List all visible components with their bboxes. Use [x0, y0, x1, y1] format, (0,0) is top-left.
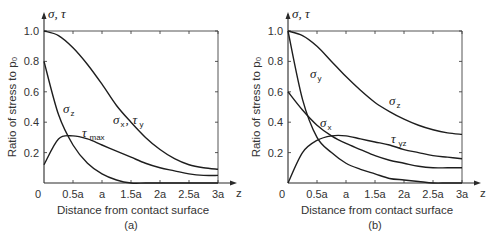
curve-label-subscript: y [318, 74, 322, 83]
x-tick-label: 0 [279, 188, 285, 200]
curve-label-symbol: σ [113, 112, 120, 127]
curve-label-symbol: τ [391, 131, 397, 146]
curve-label-symbol: σ [63, 101, 70, 116]
curve-label-symbol: τ [82, 125, 88, 140]
x-tick-label: 2.5a [178, 188, 200, 200]
y-tick-label: 1.0 [268, 25, 283, 37]
y-tick-label: 0.6 [24, 86, 39, 98]
y-axis-label: Ratio of stress to p₀ [250, 56, 262, 157]
x-tick-label: 3a [212, 188, 225, 200]
x-tick-label: 2a [154, 188, 167, 200]
curve-label-subscript: z [71, 109, 75, 118]
x-tick-label: 2a [398, 188, 411, 200]
y-tick-label: 0.4 [268, 116, 283, 128]
y-tick-label: 0.8 [24, 55, 39, 67]
y-axis-symbol: σ, τ [292, 6, 311, 21]
curve-label: τmax [82, 125, 105, 142]
panel-caption: (b) [368, 219, 381, 231]
chart-panel-a: 00.5aa1.5a2a2.5a3az0.20.40.60.81.0σ, τRa… [6, 6, 242, 231]
x-tick-label: 1.5a [120, 188, 142, 200]
curve-label-subscript: x [328, 123, 332, 132]
x-axis-label: Distance from contact surface [301, 204, 453, 216]
y-tick-label: 1.0 [24, 25, 39, 37]
x-tick-label: 0.5a [306, 188, 328, 200]
x-tick-label: 3a [456, 188, 469, 200]
curve-label-symbol: σ [320, 115, 327, 130]
y-axis-arrow-icon [286, 12, 291, 19]
plot-frame [44, 31, 218, 183]
x-axis-arrow-icon [474, 181, 481, 186]
plot-frame [288, 31, 462, 183]
curve-label: σx,τy [113, 112, 144, 129]
chart-panel-b: 00.5aa1.5a2a2.5a3az0.20.40.60.81.0σ, τRa… [250, 6, 486, 231]
curve-label-symbol: σ [310, 66, 317, 81]
curve-z [44, 31, 218, 169]
curve-label-subscript: x [121, 120, 125, 129]
panel-caption: (a) [124, 219, 137, 231]
curve-max [44, 136, 218, 176]
x-tick-label: 0.5a [62, 188, 84, 200]
y-tick-label: 0.4 [24, 116, 39, 128]
curve-label: σz [389, 93, 401, 110]
curve-yz [288, 135, 462, 183]
curve-label-comma: , [126, 112, 129, 127]
x-tick-label: a [99, 188, 106, 200]
y-axis-arrow-icon [42, 12, 47, 19]
curve-label-subscript: z [397, 101, 401, 110]
curve-label-subscript: yz [399, 139, 407, 148]
curve-label-subscript: max [90, 133, 105, 142]
y-tick-label: 0.8 [268, 55, 283, 67]
x-tick-label: 1.5a [364, 188, 386, 200]
x-tick-label: a [343, 188, 350, 200]
curve-label-symbol: σ [389, 93, 396, 108]
curve-z [288, 31, 462, 134]
y-axis-symbol: σ, τ [48, 6, 67, 21]
curve-label: τyz [391, 131, 407, 148]
curve-label-subscript: y [140, 120, 144, 129]
y-tick-label: 0.2 [24, 147, 39, 159]
x-tick-label: 2.5a [422, 188, 444, 200]
x-axis-symbol: z [480, 187, 486, 199]
curve-label: σy [310, 66, 322, 83]
y-tick-label: 0.6 [268, 86, 283, 98]
x-tick-label: 0 [35, 188, 41, 200]
curve-y [288, 31, 462, 183]
y-axis-label: Ratio of stress to p₀ [6, 56, 18, 157]
x-axis-symbol: z [236, 187, 242, 199]
x-axis-arrow-icon [230, 181, 237, 186]
curve-label: σz [63, 101, 75, 118]
x-axis-label: Distance from contact surface [57, 204, 209, 216]
curve-label: σx [320, 115, 332, 132]
stress-distribution-figure: 00.5aa1.5a2a2.5a3az0.20.40.60.81.0σ, τRa… [0, 0, 487, 242]
y-tick-label: 0.2 [268, 147, 283, 159]
curve-label-symbol: τ [133, 112, 139, 127]
